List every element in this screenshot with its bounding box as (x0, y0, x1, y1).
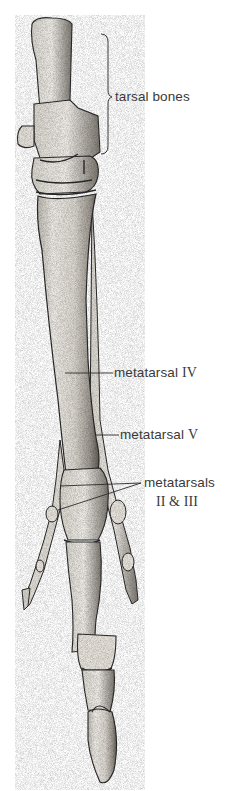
label-metatarsal-v-numeral: V (188, 427, 198, 442)
label-metatarsal-v: metatarsal V (120, 428, 198, 442)
label-metatarsal-iv-numeral: IV (182, 365, 197, 380)
stipple-texture (15, 15, 145, 790)
label-metatarsals-ii-iii: metatarsals (144, 476, 215, 490)
label-tarsal-bones: tarsal bones (115, 90, 190, 104)
label-metatarsals-ii-iii-numerals: II & III (156, 495, 198, 509)
bone-illustration (0, 0, 245, 791)
label-metatarsal-iv-text: metatarsal (114, 365, 178, 380)
label-metatarsal-iv: metatarsal IV (114, 366, 197, 380)
label-metatarsal-v-text: metatarsal (120, 427, 184, 442)
